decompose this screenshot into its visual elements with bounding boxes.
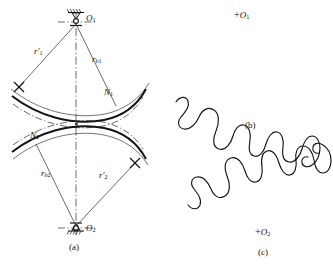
pivot-support-o1 [67, 9, 84, 26]
panel-caption-a: (a) [69, 243, 79, 252]
label-rb2: rb2 [41, 169, 51, 178]
panel-b-group [176, 97, 320, 166]
tooth-profile-curve-b [176, 97, 320, 166]
tick-mark-left-x [14, 82, 24, 92]
center-marker-o2-panel-c: +O2 [255, 227, 270, 237]
label-c: C [76, 120, 82, 129]
label-rb1: rb1 [92, 55, 102, 64]
panel-c-group [188, 143, 331, 208]
radius-line-r1-prime [19, 24, 76, 87]
label-r2-prime: r′2 [99, 171, 108, 180]
tick-mark-right-x [130, 158, 140, 168]
label-n1: N1 [104, 88, 113, 97]
center-marker-o1-panel-b: +O1 [234, 10, 249, 20]
label-r1-prime: r′1 [34, 47, 43, 56]
profile-arc-upper-thick [12, 89, 146, 122]
label-o1: O1 [86, 14, 96, 23]
radius-line-rb2 [36, 144, 76, 226]
tooth-profile-curve-c [188, 143, 331, 208]
label-o2: O2 [86, 224, 96, 233]
technical-diagram-canvas [0, 0, 333, 265]
figure-root: O1 r′1 rb1 N1 C N2 rb2 r′2 O2 (a) +O1 (b… [0, 0, 333, 265]
label-n2: N2 [30, 131, 39, 140]
panel-caption-b: (b) [245, 121, 256, 130]
panel-caption-c: (c) [258, 248, 268, 257]
